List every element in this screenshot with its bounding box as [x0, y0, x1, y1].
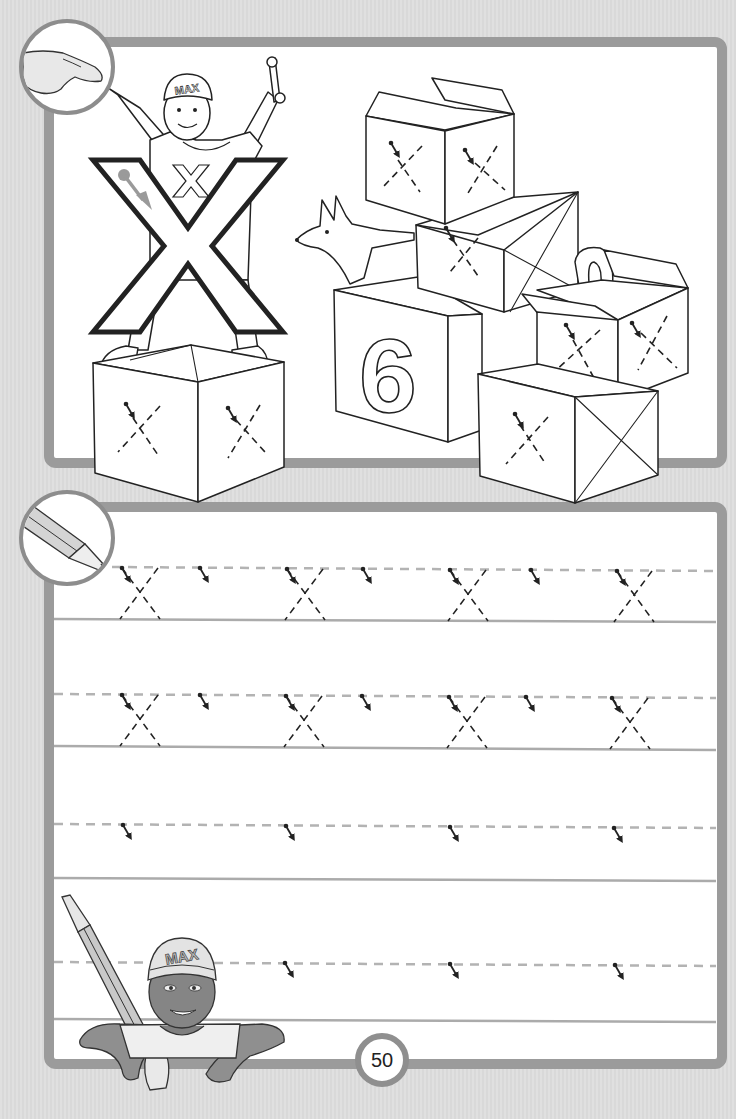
box-under-max — [93, 345, 284, 502]
pointing-hand-icon — [19, 19, 115, 115]
artwork-layer: MAX 6 — [0, 0, 736, 1119]
svg-text:6: 6 — [359, 318, 417, 434]
block-six: 6 — [334, 277, 482, 442]
page-number: 50 — [355, 1033, 409, 1087]
pencil-icon — [62, 895, 146, 1038]
writing-rows — [54, 567, 716, 1022]
row-2-traced-letters — [120, 693, 650, 749]
row-1-traced-letters — [120, 566, 654, 622]
max-character-bottom: MAX — [62, 895, 284, 1090]
box-bottom-right — [478, 364, 658, 503]
pencil-icon — [19, 490, 115, 586]
box-top-stack — [366, 78, 514, 224]
row-3-start-arrows — [121, 823, 621, 840]
